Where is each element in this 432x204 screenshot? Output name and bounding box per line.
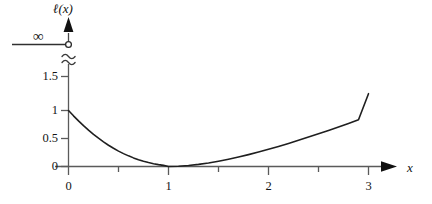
y-axis-label: ℓ(x) [53, 2, 73, 15]
plot-figure: ℓ(x) x ∞ 1.5 1 0.5 0 0 1 2 3 [0, 0, 432, 204]
plot-canvas [0, 0, 432, 204]
x-tick-label-0: 0 [56, 180, 81, 193]
axis-break-squiggle-upper [62, 54, 75, 58]
y-tick-label-0: 0 [18, 160, 58, 173]
x-tick-label-3: 3 [356, 180, 381, 193]
y-tick-label-0.5: 0.5 [18, 132, 58, 145]
data-curve [69, 94, 369, 167]
y-tick-label-1.5: 1.5 [18, 70, 58, 83]
y-tick-label-1: 1 [18, 104, 58, 117]
infinity-label: ∞ [33, 29, 44, 44]
x-axis-arrowhead [381, 161, 397, 171]
x-axis-label: x [407, 161, 413, 174]
y-axis-arrowhead [64, 17, 74, 32]
infinity-open-circle-marker [66, 42, 72, 48]
axis-break-squiggle-lower [62, 60, 75, 64]
x-tick-label-2: 2 [256, 180, 281, 193]
x-tick-label-1: 1 [156, 180, 181, 193]
